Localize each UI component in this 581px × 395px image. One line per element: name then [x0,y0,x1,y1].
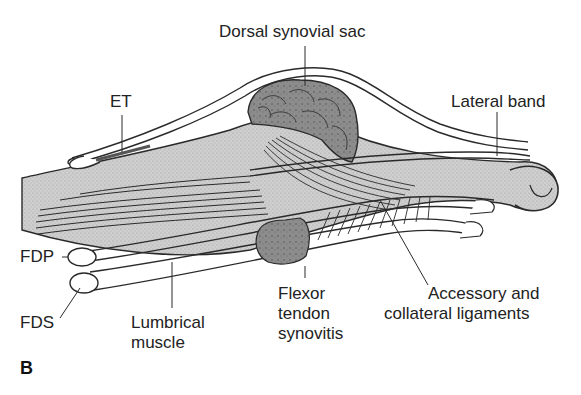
label-lumbrical-line-2: muscle [131,333,205,353]
label-accessory-line-1: Accessory and [384,284,564,304]
label-lateral-band: Lateral band [451,92,546,112]
label-fdp: FDP [20,247,54,267]
label-lumbrical-line-1: Lumbrical [131,313,205,333]
anatomy-figure: Dorsal synovial sac ET Lateral band FDP … [0,0,581,395]
fds-cut-end [70,273,98,293]
label-et: ET [110,92,132,112]
label-dorsal-synovial-sac: Dorsal synovial sac [219,22,365,42]
fdp-cut-end [68,248,96,266]
label-flexor-line-3: synovitis [278,324,343,344]
flexor-synovitis-shape [256,218,309,264]
label-flexor-line-1: Flexor [278,284,343,304]
label-fds: FDS [20,313,54,333]
panel-letter: B [20,358,33,379]
label-flexor-tendon-synovitis: Flexor tendon synovitis [278,284,343,344]
label-accessory-line-2: collateral ligaments [384,304,564,324]
label-flexor-line-2: tendon [278,304,343,324]
label-lumbrical-muscle: Lumbrical muscle [131,313,205,353]
label-accessory-collateral-ligaments: Accessory and collateral ligaments [384,284,564,324]
